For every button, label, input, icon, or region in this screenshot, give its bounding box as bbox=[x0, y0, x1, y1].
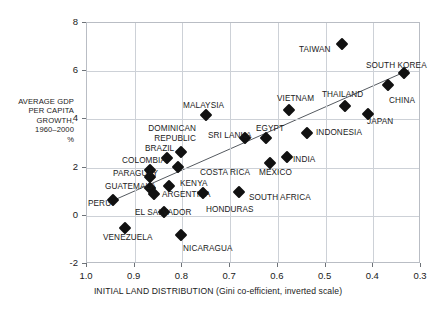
data-point-label: VENEZUELA bbox=[103, 233, 153, 243]
x-tick-mark bbox=[229, 263, 230, 267]
y-gridline bbox=[87, 71, 419, 72]
data-point-label: CHINA bbox=[389, 96, 415, 106]
trendline bbox=[87, 23, 421, 264]
data-point-label: MEXICO bbox=[259, 168, 292, 178]
x-tick-mark bbox=[86, 263, 87, 267]
data-point-label: PERU bbox=[88, 199, 111, 209]
x-tick-label: 0.6 bbox=[262, 270, 292, 281]
x-tick-label: 0.7 bbox=[214, 270, 244, 281]
y-tick-label: 8 bbox=[56, 16, 78, 27]
x-tick-label: 0.9 bbox=[119, 270, 149, 281]
data-point-label: INDIA bbox=[293, 155, 315, 165]
data-point-label: JAPAN bbox=[367, 117, 393, 127]
y-tick-mark bbox=[82, 118, 86, 119]
data-point-label: DOMINICAN REPUBLIC bbox=[140, 124, 196, 143]
data-point-label: SRI LANKA bbox=[208, 131, 252, 141]
x-gridline bbox=[230, 23, 231, 262]
x-tick-label: 0.5 bbox=[310, 270, 340, 281]
data-point-label: NICARAGUA bbox=[183, 244, 233, 254]
y-axis-title-line: AVERAGE GDP bbox=[2, 97, 74, 106]
data-point-label: EGYPT bbox=[256, 124, 284, 134]
x-tick-mark bbox=[372, 263, 373, 267]
x-tick-mark bbox=[181, 263, 182, 267]
y-tick-mark bbox=[82, 70, 86, 71]
y-tick-label: 4 bbox=[56, 112, 78, 123]
y-tick-label: 6 bbox=[56, 64, 78, 75]
x-tick-mark bbox=[325, 263, 326, 267]
x-tick-label: 0.4 bbox=[357, 270, 387, 281]
x-gridline bbox=[326, 23, 327, 262]
data-point-label: VIETNAM bbox=[277, 94, 314, 104]
x-gridline bbox=[373, 23, 374, 262]
x-tick-label: 1.0 bbox=[71, 270, 101, 281]
plot-area bbox=[86, 22, 420, 263]
scatter-chart: AVERAGE GDPPER CAPITAGROWTH,1960–2000% I… bbox=[0, 0, 436, 311]
x-tick-mark bbox=[277, 263, 278, 267]
data-point-label: COLOMBIA bbox=[122, 156, 166, 166]
y-tick-mark bbox=[82, 215, 86, 216]
data-point-label: BRAZIL bbox=[145, 144, 174, 154]
data-point-label: GUATEMALA bbox=[105, 182, 156, 192]
y-axis-title-line: % bbox=[2, 135, 74, 144]
y-tick-mark bbox=[82, 22, 86, 23]
data-point-label: COSTA RICA bbox=[200, 168, 250, 178]
data-point-label: SOUTH KOREA bbox=[366, 61, 427, 71]
x-axis-title: INITIAL LAND DISTRIBUTION (Gini co-effic… bbox=[0, 286, 436, 296]
y-tick-label: 2 bbox=[56, 161, 78, 172]
y-axis-title-line: 1960–2000 bbox=[2, 125, 74, 134]
x-gridline bbox=[135, 23, 136, 262]
data-point-label: HONDURAS bbox=[206, 205, 254, 215]
data-point-label: MALAYSIA bbox=[183, 101, 224, 111]
y-tick-mark bbox=[82, 167, 86, 168]
data-point-label: INDONESIA bbox=[316, 128, 362, 138]
x-gridline bbox=[278, 23, 279, 262]
data-point-label: PARAGUAY bbox=[113, 169, 158, 179]
x-tick-mark bbox=[134, 263, 135, 267]
data-point-label: TAIWAN bbox=[299, 45, 331, 55]
x-tick-mark bbox=[420, 263, 421, 267]
cropped-title-strip bbox=[235, 1, 435, 10]
y-tick-label: -2 bbox=[56, 257, 78, 268]
y-tick-label: 0 bbox=[56, 209, 78, 220]
x-tick-label: 0.3 bbox=[405, 270, 435, 281]
data-point-label: SOUTH AFRICA bbox=[249, 193, 311, 203]
data-point-label: EL SALVADOR bbox=[135, 208, 191, 218]
data-point-label: THAILAND bbox=[322, 90, 363, 100]
x-tick-label: 0.8 bbox=[166, 270, 196, 281]
